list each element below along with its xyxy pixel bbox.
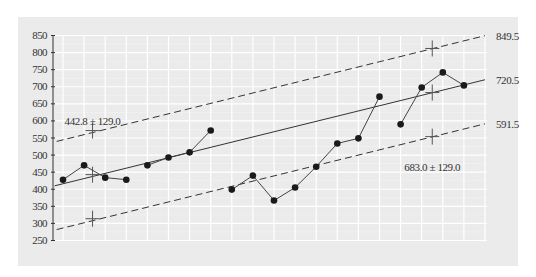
- data-point: [292, 184, 299, 191]
- y-tick-label: 350: [32, 200, 48, 212]
- data-point: [461, 82, 468, 89]
- mean-sd-label: 442.8 ± 129.0: [65, 115, 122, 127]
- y-tick-label: 600: [32, 114, 48, 126]
- data-point: [376, 93, 383, 100]
- y-tick-label: 300: [32, 217, 48, 229]
- line-chart: 250300350400450500550600650700750800850 …: [0, 0, 536, 277]
- data-point: [186, 149, 193, 156]
- data-point: [102, 174, 109, 181]
- y-tick-label: 400: [32, 183, 48, 195]
- y-tick-label: 650: [32, 97, 48, 109]
- y-tick-label: 700: [32, 80, 48, 92]
- mean-sd-label: 683.0 ± 129.0: [404, 161, 461, 173]
- data-point: [271, 197, 278, 204]
- y-tick-label: 450: [32, 166, 48, 178]
- data-point: [440, 69, 447, 76]
- y-tick-label: 250: [32, 234, 48, 246]
- data-point: [144, 162, 151, 169]
- data-point: [165, 154, 172, 161]
- end-value-label: 849.5: [496, 30, 520, 42]
- data-point: [60, 176, 67, 183]
- data-point: [313, 163, 320, 170]
- data-point: [229, 186, 236, 193]
- data-point: [207, 127, 214, 134]
- data-point: [334, 140, 341, 147]
- data-point: [123, 176, 130, 183]
- data-point: [250, 172, 257, 179]
- data-point: [355, 135, 362, 142]
- y-tick-label: 850: [32, 29, 48, 41]
- chart-container: 250300350400450500550600650700750800850 …: [0, 0, 536, 277]
- y-tick-label: 500: [32, 149, 48, 161]
- data-point: [418, 84, 425, 91]
- y-tick-label: 550: [32, 132, 48, 144]
- end-value-label: 720.5: [496, 74, 520, 86]
- data-point: [397, 121, 404, 128]
- end-value-label: 591.5: [496, 118, 520, 130]
- y-tick-label: 800: [32, 46, 48, 58]
- y-tick-label: 750: [32, 63, 48, 75]
- data-point: [81, 162, 88, 169]
